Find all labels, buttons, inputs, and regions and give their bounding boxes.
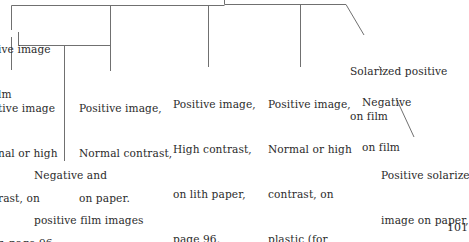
node-line: page 96.: [173, 232, 256, 242]
node-line: Negative: [362, 95, 411, 110]
node-line: Positive solarized: [381, 168, 469, 183]
node-line: plastic (for: [268, 232, 352, 242]
node-line: contrast, on: [268, 187, 352, 202]
node-line: tive image: [0, 101, 58, 116]
node-positive-plastic: Positive image, Normal or high contrast,…: [268, 67, 352, 242]
node-positive-high-lith: Positive image, High contrast, on lith p…: [173, 67, 256, 242]
node-line: Positive image,: [79, 101, 172, 116]
node-line: Normal or high: [268, 142, 352, 157]
node-line: Positive image,: [173, 97, 256, 112]
node-line: High contrast,: [173, 142, 256, 157]
node-negative-positive-combined: Negative and positive film images combin…: [34, 138, 144, 242]
photo-process-diagram: ive image lm tive image nal or high rast…: [0, 0, 469, 242]
node-line: on lith paper,: [173, 187, 256, 202]
node-line: ive image: [0, 42, 51, 57]
page-number: 101: [447, 221, 468, 234]
node-line: positive film images: [34, 213, 144, 228]
node-line: Positive image,: [268, 97, 352, 112]
node-line: Negative and: [34, 168, 144, 183]
